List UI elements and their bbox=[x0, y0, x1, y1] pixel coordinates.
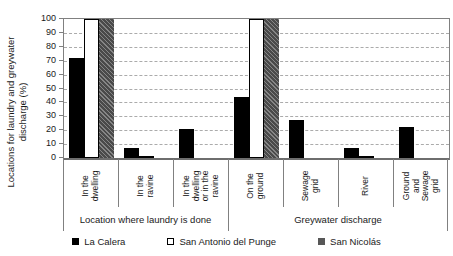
y-tick-label-10: 10 bbox=[32, 138, 56, 148]
x-category-label-5: Sewage grid bbox=[283, 160, 338, 212]
x-category-label-text: River bbox=[361, 176, 371, 196]
legend-swatch-icon bbox=[167, 238, 174, 245]
y-tick-label-30: 30 bbox=[32, 110, 56, 120]
category-separator bbox=[173, 159, 174, 207]
x-category-label-7: Ground and Sewage grid bbox=[393, 160, 448, 212]
y-axis-title: Locations for laundry and greywater disc… bbox=[5, 7, 30, 217]
bar-san-antonio-del-punge-cat6 bbox=[359, 156, 374, 158]
y-tick-mark-100 bbox=[59, 18, 63, 19]
legend-label: La Calera bbox=[84, 236, 125, 247]
bar-la-calera-cat4 bbox=[234, 97, 249, 158]
y-tick-mark-50 bbox=[59, 88, 63, 89]
legend-label: San Antonio del Punge bbox=[179, 236, 276, 247]
bar-san-antonio-del-punge-cat2 bbox=[139, 156, 154, 158]
bar-la-calera-cat7 bbox=[399, 127, 414, 158]
x-category-label-text: On the ground bbox=[246, 173, 265, 199]
x-category-label-text: In the dwelling bbox=[81, 171, 100, 202]
y-tick-mark-0 bbox=[59, 157, 63, 158]
y-tick-mark-60 bbox=[59, 74, 63, 75]
y-tick-label-100: 100 bbox=[32, 13, 56, 23]
bar-la-calera-cat1 bbox=[69, 58, 84, 158]
y-tick-label-90: 90 bbox=[32, 27, 56, 37]
category-separator bbox=[393, 159, 394, 207]
bar-san-nicol-s-cat1 bbox=[99, 19, 114, 158]
group-label-2: Greywater discharge bbox=[228, 212, 448, 228]
plot-area bbox=[63, 18, 450, 160]
bar-la-calera-cat6 bbox=[344, 148, 359, 158]
x-category-label-4: On the ground bbox=[228, 160, 283, 212]
category-separator bbox=[118, 159, 119, 207]
y-tick-label-80: 80 bbox=[32, 41, 56, 51]
bar-chart: Locations for laundry and greywater disc… bbox=[0, 0, 453, 256]
y-tick-label-70: 70 bbox=[32, 55, 56, 65]
x-category-label-3: In the dwelling or in the ravine bbox=[173, 160, 228, 212]
y-tick-mark-10 bbox=[59, 143, 63, 144]
y-tick-label-20: 20 bbox=[32, 124, 56, 134]
legend-swatch-icon bbox=[72, 238, 79, 245]
category-separator bbox=[283, 159, 284, 207]
y-tick-label-0: 0 bbox=[32, 152, 56, 162]
y-tick-mark-90 bbox=[59, 32, 63, 33]
category-separator bbox=[338, 159, 339, 207]
y-tick-mark-40 bbox=[59, 101, 63, 102]
x-category-label-text: Sewage grid bbox=[301, 171, 320, 202]
y-tick-mark-30 bbox=[59, 115, 63, 116]
bar-san-antonio-del-punge-cat4 bbox=[249, 19, 264, 158]
x-category-label-1: In the dwelling bbox=[63, 160, 118, 212]
bar-san-nicol-s-cat4 bbox=[264, 19, 279, 158]
bar-la-calera-cat5 bbox=[289, 120, 304, 158]
legend-label: San Nicolás bbox=[330, 236, 381, 247]
y-axis-title-line1: Locations for laundry and greywater bbox=[5, 7, 17, 217]
legend: La CaleraSan Antonio del PungeSan Nicolá… bbox=[0, 236, 453, 247]
y-tick-mark-80 bbox=[59, 46, 63, 47]
bar-la-calera-cat2 bbox=[124, 148, 139, 158]
y-tick-mark-70 bbox=[59, 60, 63, 61]
legend-item-la-calera: La Calera bbox=[72, 236, 125, 247]
legend-swatch-icon bbox=[318, 238, 325, 245]
y-tick-label-50: 50 bbox=[32, 83, 56, 93]
bar-san-antonio-del-punge-cat1 bbox=[84, 19, 99, 158]
y-tick-label-40: 40 bbox=[32, 96, 56, 106]
x-category-label-text: Ground and Sewage grid bbox=[401, 171, 439, 202]
x-category-label-2: In the ravine bbox=[118, 160, 173, 212]
group-label-1: Location where laundry is done bbox=[63, 212, 228, 228]
legend-item-san-antonio-del-punge: San Antonio del Punge bbox=[167, 236, 276, 247]
y-tick-label-60: 60 bbox=[32, 69, 56, 79]
bar-la-calera-cat3 bbox=[179, 129, 194, 158]
x-category-label-text: In the dwelling or in the ravine bbox=[181, 171, 219, 202]
x-category-label-text: In the ravine bbox=[136, 174, 155, 197]
x-category-label-6: River bbox=[338, 160, 393, 212]
y-tick-mark-20 bbox=[59, 129, 63, 130]
y-axis-title-line2: discharge (%) bbox=[17, 7, 29, 217]
legend-item-san-nicol-s: San Nicolás bbox=[318, 236, 381, 247]
